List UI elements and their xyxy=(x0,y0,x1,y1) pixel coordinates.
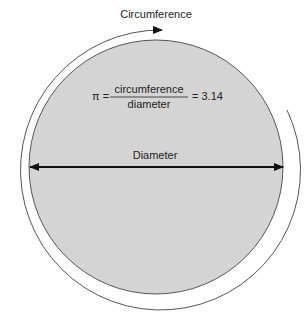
pi-diagram: Circumference π = circumference diameter… xyxy=(0,0,308,314)
formula-denominator: diameter xyxy=(128,98,171,110)
circumference-title: Circumference xyxy=(120,8,192,20)
diameter-label: Diameter xyxy=(133,149,178,161)
formula-lhs: π = xyxy=(92,90,109,102)
formula-numerator: circumference xyxy=(114,83,183,95)
formula-rhs: = 3.14 xyxy=(192,90,223,102)
